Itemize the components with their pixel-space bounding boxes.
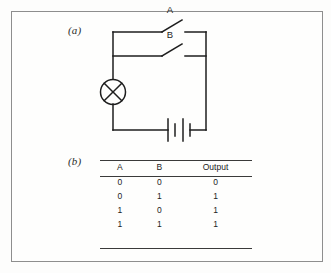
column-header-a: A <box>100 160 140 175</box>
table-rule-bottom <box>100 248 252 249</box>
switch-b-label: B <box>167 29 173 40</box>
switch-b-blade-icon[interactable] <box>162 44 182 56</box>
table-header-row: A B Output <box>100 160 252 175</box>
figure-page: (a) (b) <box>0 0 331 273</box>
cell-output: 1 <box>179 217 252 231</box>
circuit-diagram: A B <box>0 0 331 160</box>
switch-a-label: A <box>167 4 174 15</box>
table-row: 0 1 1 <box>100 189 252 203</box>
cell-a: 1 <box>100 203 140 217</box>
cell-b: 0 <box>140 203 180 217</box>
cell-output: 1 <box>179 203 252 217</box>
table-row: 1 0 1 <box>100 203 252 217</box>
cell-b: 1 <box>140 189 180 203</box>
cell-a: 0 <box>100 175 140 189</box>
column-header-b: B <box>140 160 180 175</box>
cell-a: 1 <box>100 217 140 231</box>
column-header-output: Output <box>179 160 252 175</box>
truth-table: A B Output 0 0 0 0 1 1 1 0 <box>100 160 252 231</box>
cell-output: 1 <box>179 189 252 203</box>
table-row: 1 1 1 <box>100 217 252 231</box>
cell-a: 0 <box>100 189 140 203</box>
table-row: 0 0 0 <box>100 175 252 189</box>
cell-b: 1 <box>140 217 180 231</box>
cell-output: 0 <box>179 175 252 189</box>
cell-b: 0 <box>140 175 180 189</box>
